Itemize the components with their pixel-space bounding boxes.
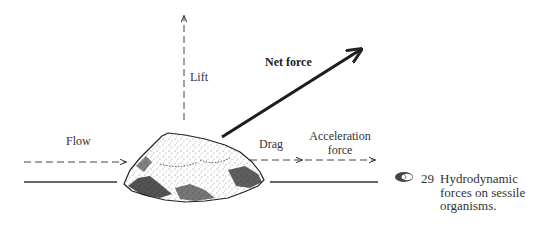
caption-line-1: Hydrodynamic — [440, 172, 525, 186]
acceleration-label-line1: Acceleration — [308, 129, 372, 143]
drag-label: Drag — [259, 137, 283, 151]
net-force-label: Net force — [265, 55, 312, 69]
acceleration-label-line2: force — [308, 143, 372, 157]
sessile-organism-rock — [124, 133, 264, 202]
acceleration-force-label: Acceleration force — [308, 129, 372, 157]
caption-line-3: organisms. — [440, 199, 525, 213]
figure-number: 29 — [421, 172, 434, 186]
shell-icon — [395, 172, 413, 182]
caption-text: Hydrodynamic forces on sessile organisms… — [440, 172, 525, 213]
flow-label: Flow — [66, 134, 91, 148]
caption-line-2: forces on sessile — [440, 186, 525, 200]
lift-label: Lift — [190, 70, 208, 84]
